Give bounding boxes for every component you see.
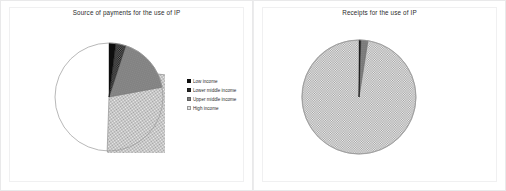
legend-label-high-income: High income [193,106,219,111]
legend-label-upper-middle-income: Upper middle income [193,97,236,102]
legend-item-lower-middle-income: Lower middle income [187,86,251,95]
pie-chart-receipts [300,38,418,156]
upper-middle-income-swatch [187,97,191,101]
legend-item-high-income: High income [187,104,251,113]
chart-title-receipts: Receipts for the use of IP [254,9,505,16]
legend-label-lower-middle-income: Lower middle income [193,88,236,93]
low-income-swatch [187,79,191,83]
figure-container: Source of payments for the use of IP [0,0,506,191]
legend-payments: Low income Lower middle income Upper mid… [187,77,251,113]
pie-svg-receipts [300,38,418,156]
lower-middle-income-swatch [187,88,191,92]
pie-svg-payments [53,41,165,153]
high-income-swatch [187,106,191,110]
chart-title-payments: Source of payments for the use of IP [1,9,252,16]
chart-panel-payments: Source of payments for the use of IP [0,0,253,191]
legend-label-low-income: Low income [193,79,218,84]
legend-item-upper-middle-income: Upper middle income [187,95,251,104]
legend-item-low-income: Low income [187,77,251,86]
pie-chart-payments [53,41,165,153]
